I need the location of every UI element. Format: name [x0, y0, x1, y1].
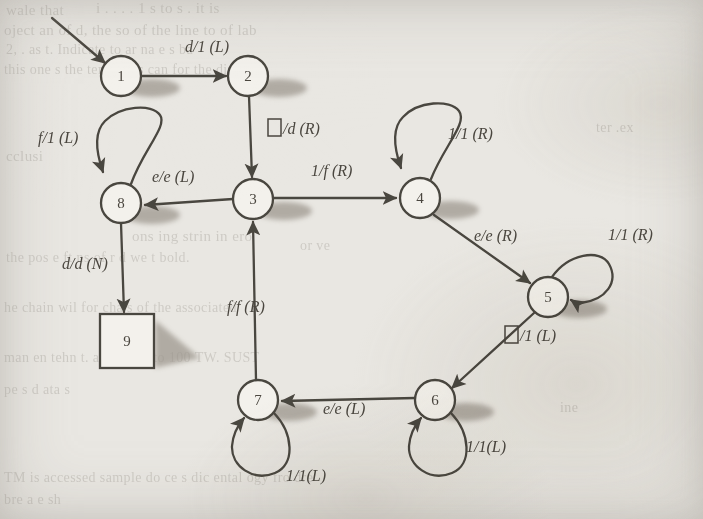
- transition-label-text: 1/f (R): [311, 162, 352, 180]
- state-label-8: 8: [117, 195, 125, 211]
- transition-label-text: /d (R): [282, 120, 320, 138]
- transition-label-t4: 1/f (R): [311, 162, 352, 180]
- transition-labels: d/1 (L)/d (R)e/e (L)1/f (R)e/e (R)/1 (L)…: [38, 38, 653, 485]
- transition-label-t13: 1/1(L): [466, 438, 506, 456]
- transition-label-text: 1/1(L): [286, 467, 326, 485]
- diagram-canvas: d/1 (L)/d (R)e/e (L)1/f (R)e/e (R)/1 (L)…: [0, 0, 703, 519]
- transition-label-text: 1/1(L): [466, 438, 506, 456]
- transition-label-text: e/e (L): [152, 168, 194, 186]
- transition-label-t11: 1/1 (R): [448, 125, 493, 143]
- edge-5-6: [452, 313, 534, 388]
- transition-label-text: d/1 (L): [185, 38, 229, 56]
- transition-label-text: e/e (R): [474, 227, 517, 245]
- self-loop-6: [409, 413, 467, 476]
- transition-label-t12: 1/1 (R): [608, 226, 653, 244]
- edge-4-5: [434, 215, 530, 283]
- state-label-2: 2: [244, 68, 252, 84]
- state-label-6: 6: [431, 392, 439, 408]
- transition-label-t7: e/e (L): [323, 400, 365, 418]
- transition-label-t9: d/d (N): [62, 255, 108, 273]
- transition-label-t8: f/f (R): [227, 298, 265, 316]
- edge-8-9: [121, 223, 124, 312]
- transition-label-t14: 1/1(L): [286, 467, 326, 485]
- transition-label-text: f/1 (L): [38, 129, 78, 147]
- edge-3-8: [145, 199, 233, 205]
- transition-label-t6: /1 (L): [505, 326, 556, 345]
- node-shadows: [124, 79, 607, 421]
- state-label-5: 5: [544, 289, 552, 305]
- blank-symbol-icon: [268, 119, 281, 136]
- transition-label-t1: d/1 (L): [185, 38, 229, 56]
- state-label-3: 3: [249, 191, 257, 207]
- state-label-7: 7: [254, 392, 262, 408]
- transition-label-text: f/f (R): [227, 298, 265, 316]
- transition-label-text: 1/1 (R): [448, 125, 493, 143]
- self-loop-7: [232, 413, 290, 476]
- edge-2-3: [249, 96, 252, 177]
- state-label-4: 4: [416, 190, 424, 206]
- node-9-shadow: [155, 320, 200, 368]
- transition-label-text: e/e (L): [323, 400, 365, 418]
- transition-label-t3: e/e (L): [152, 168, 194, 186]
- transition-label-t10: f/1 (L): [38, 129, 78, 147]
- transition-label-t5: e/e (R): [474, 227, 517, 245]
- transition-label-text: /1 (L): [519, 327, 556, 345]
- state-diagram-figure: wale thati . . . . 1 s to s . it isoject…: [0, 0, 703, 519]
- transition-label-text: 1/1 (R): [608, 226, 653, 244]
- state-label-1: 1: [117, 68, 125, 84]
- transition-label-text: d/d (N): [62, 255, 108, 273]
- state-label-9: 9: [123, 333, 131, 349]
- transition-label-t2: /d (R): [268, 119, 320, 138]
- start-arrow: [52, 18, 105, 63]
